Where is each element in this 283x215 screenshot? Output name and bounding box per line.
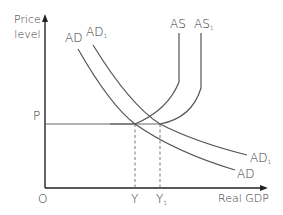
as-label: AS — [170, 18, 186, 30]
origin-label-text: O — [38, 192, 47, 206]
as-label-text: AS — [170, 17, 186, 31]
output-y1-label-sub: 1 — [163, 199, 167, 206]
output-y-label-text: Y — [131, 192, 138, 206]
y-axis-label: Price level — [14, 12, 41, 42]
ad-label: AD — [65, 32, 82, 44]
x-axis-arrow-icon — [260, 185, 268, 191]
as1-label: AS1 — [194, 18, 214, 31]
ad1-curve — [93, 45, 247, 155]
output-y1-label: Y1 — [156, 193, 167, 206]
price-label: P — [33, 110, 40, 122]
as1-label-text: AS — [194, 17, 210, 31]
y-axis-arrow-icon — [42, 14, 48, 22]
x-axis-label: Real GDP — [218, 193, 269, 204]
y-axis-label-line2: level — [14, 27, 41, 42]
ad1-label-bottom-sub: 1 — [267, 158, 271, 165]
ad1-label-bottom: AD1 — [250, 152, 271, 165]
as1-label-sub: 1 — [210, 24, 214, 31]
ad-curve — [78, 49, 235, 170]
y-axis-label-line1: Price — [14, 12, 41, 27]
x-axis-label-text: Real GDP — [218, 192, 269, 205]
output-y-label: Y — [131, 193, 138, 205]
ad1-label-sub: 1 — [103, 32, 107, 39]
ad1-label-top: AD1 — [86, 26, 107, 39]
ad1-label-text: AD — [86, 25, 103, 39]
ad-label-text: AD — [65, 31, 82, 45]
ad-label-bottom-text: AD — [237, 167, 254, 181]
ad-as-diagram — [0, 0, 283, 215]
ad1-label-bottom-text: AD — [250, 151, 267, 165]
origin-label: O — [38, 193, 47, 205]
price-label-text: P — [33, 109, 40, 123]
ad-label-bottom: AD — [237, 168, 254, 180]
as1-curve — [160, 33, 201, 124]
